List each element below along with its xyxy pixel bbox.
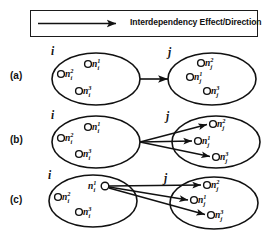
node-label-n3i-c: n3i — [83, 205, 90, 219]
node-circle-n1i-c — [101, 182, 109, 190]
node-label-n3j-c: n3j — [215, 208, 222, 222]
row-c-graphics — [0, 0, 271, 241]
node-circle-n3j-c — [208, 212, 215, 219]
node-label-n1i-c: n1i — [88, 179, 95, 193]
interdependency-arrow-c-1 — [109, 185, 201, 186]
node-label-n2i-c: n2i — [62, 190, 69, 204]
node-circle-n1j-c — [191, 197, 198, 204]
node-circle-n2i-c — [55, 194, 62, 201]
node-circle-n3i-c — [76, 209, 83, 216]
node-circle-n2j-c — [204, 182, 211, 189]
node-label-n2j-c: n2j — [211, 178, 218, 192]
interdependency-figure: Interdependency Effect/Direction (a) i j… — [0, 0, 271, 241]
node-label-n1j-c: n1j — [198, 193, 205, 207]
